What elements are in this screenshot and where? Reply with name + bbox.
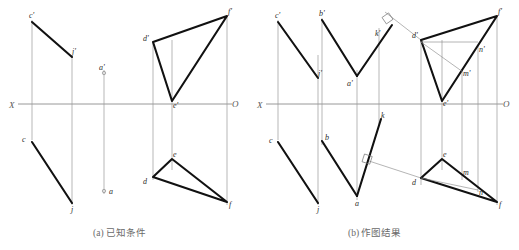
- label-fprime-a: f': [228, 7, 232, 16]
- panel-a-known-conditions: c' j' c j a' a d' e' f' d e f X O (a) 已知…: [8, 7, 239, 239]
- segment-cprime-jprime-b: [278, 22, 318, 78]
- label-kprime-b: k': [375, 29, 381, 38]
- label-j-a: j: [70, 205, 74, 214]
- label-cprime-b: c': [275, 11, 281, 20]
- axis-label-x-a: X: [8, 100, 15, 110]
- label-aprime-a: a': [99, 63, 105, 72]
- perpendicular-line-top-b: [369, 161, 421, 178]
- label-jprime-b: j': [317, 69, 322, 78]
- segment-cprime-jprime-a: [32, 22, 72, 57]
- label-j-b: j: [316, 205, 320, 214]
- label-eprime-b: e': [443, 99, 449, 108]
- label-nprime-b: n': [479, 45, 485, 54]
- label-c-b: c: [269, 136, 273, 145]
- caption-a: (a) 已知条件: [93, 227, 146, 239]
- label-jprime-a: j': [71, 47, 76, 56]
- label-bprime-b: b': [319, 9, 325, 18]
- label-e-a: e: [173, 150, 177, 159]
- segment-c-j-b: [278, 142, 318, 203]
- label-cprime-a: c': [29, 11, 35, 20]
- right-angle-mark-front-b: [382, 13, 393, 24]
- label-dprime-b: d': [412, 31, 418, 40]
- label-d-b: d: [412, 178, 417, 187]
- label-n-b: n: [479, 188, 483, 197]
- label-c-a: c: [22, 135, 26, 144]
- label-eprime-a: e': [173, 101, 179, 110]
- label-m-b: m: [463, 168, 469, 177]
- label-mprime-b: m': [463, 69, 471, 78]
- label-aprime-b: a': [347, 79, 353, 88]
- label-fprime-b: f': [498, 7, 502, 16]
- axis-label-o-a: O: [232, 99, 239, 109]
- segment-bprime-aprime-b: [322, 20, 357, 76]
- segment-a-k-b: [357, 119, 381, 196]
- label-f-a: f: [229, 200, 233, 209]
- segment-c-j-a: [32, 142, 72, 203]
- label-f-b: f: [499, 200, 503, 209]
- label-d-a: d: [143, 177, 148, 186]
- axis-label-x-b: X: [256, 100, 263, 110]
- label-a-b: a: [355, 199, 359, 208]
- label-dprime-a: d': [143, 34, 149, 43]
- label-e-b: e: [443, 150, 447, 159]
- segment-b-a-b: [322, 141, 357, 196]
- triangle-dprime-eprime-fprime-a: [153, 16, 227, 101]
- caption-b: (b) 作图结果: [348, 227, 401, 239]
- label-a-a: a: [109, 187, 113, 196]
- axis-label-o-b: O: [503, 99, 510, 109]
- panel-b-construction-result: c' j' b' a' k' d' e' f' m' n' c j b a k …: [256, 7, 510, 239]
- triangle-dprime-eprime-fprime-b: [421, 16, 497, 101]
- label-b-b: b: [325, 133, 329, 142]
- drawing-canvas: c' j' c j a' a d' e' f' d e f X O (a) 已知…: [0, 0, 519, 250]
- label-k-b: k: [381, 111, 385, 120]
- triangle-d-e-f-a: [153, 159, 227, 202]
